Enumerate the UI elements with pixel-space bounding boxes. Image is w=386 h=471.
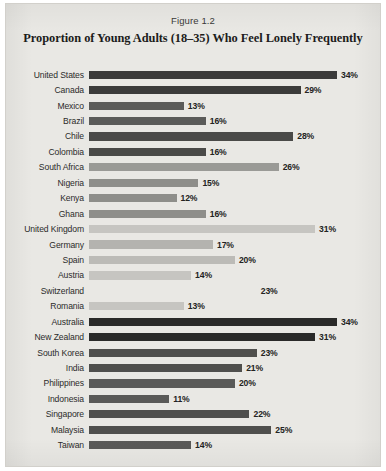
bar-category-label: Austria — [6, 270, 89, 280]
bar-value-label: 34% — [337, 70, 358, 80]
bar-value-label: 16% — [206, 209, 227, 219]
bar-category-label: Singapore — [6, 409, 89, 419]
bar-fill — [89, 426, 271, 434]
bar-track: 17% — [89, 237, 380, 252]
bar-track: 14% — [89, 438, 380, 453]
bar-value-label: 26% — [279, 162, 300, 172]
bar-fill — [89, 148, 206, 156]
bar-chart: United States34%Canada29%Mexico13%Brazil… — [6, 67, 380, 465]
bar-value-label: 14% — [191, 270, 212, 280]
bar-track: 15% — [89, 175, 380, 190]
bar-row: Nigeria15% — [6, 175, 380, 190]
bar-value-label: 12% — [177, 193, 198, 203]
bar-value-label: 34% — [337, 317, 358, 327]
bar-row: Taiwan14% — [6, 438, 380, 453]
bar-fill — [89, 225, 315, 233]
bar-fill — [89, 349, 257, 357]
bar-fill — [89, 271, 191, 279]
bar-fill — [89, 71, 337, 79]
bar-row: Colombia16% — [6, 144, 380, 159]
bar-row: South Korea23% — [6, 345, 380, 360]
bar-track: 28% — [89, 129, 380, 144]
bar-track: 13% — [89, 299, 380, 314]
bar-value-label: 16% — [206, 116, 227, 126]
bar-fill — [89, 210, 206, 218]
bar-track: 13% — [89, 98, 380, 113]
bar-category-label: Brazil — [6, 116, 89, 126]
bar-value-label: 23% — [257, 286, 278, 296]
bar-value-label: 31% — [315, 332, 336, 342]
bar-category-label: India — [6, 363, 89, 373]
bar-category-label: Australia — [6, 317, 89, 327]
bar-row: Chile28% — [6, 129, 380, 144]
bar-category-label: South Africa — [6, 162, 89, 172]
bar-value-label: 29% — [301, 85, 322, 95]
bar-category-label: Kenya — [6, 193, 89, 203]
bar-category-label: New Zealand — [6, 332, 89, 342]
bar-fill — [89, 333, 315, 341]
bar-value-label: 14% — [191, 440, 212, 450]
bar-value-label: 20% — [235, 378, 256, 388]
bar-row: Singapore22% — [6, 407, 380, 422]
figure-panel: Figure 1.2 Proportion of Young Adults (1… — [5, 3, 381, 467]
bar-row: Mexico13% — [6, 98, 380, 113]
bar-value-label: 31% — [315, 224, 336, 234]
bar-value-label: 25% — [271, 425, 292, 435]
bar-row: Spain20% — [6, 252, 380, 267]
bar-track: 29% — [89, 82, 380, 97]
bar-track: 20% — [89, 252, 380, 267]
bar-row: India21% — [6, 360, 380, 375]
bar-row: Switzerland23% — [6, 283, 380, 298]
bar-row: Romania13% — [6, 299, 380, 314]
bar-fill — [89, 194, 177, 202]
bar-track: 23% — [89, 345, 380, 360]
bar-category-label: Nigeria — [6, 178, 89, 188]
bar-category-label: Mexico — [6, 101, 89, 111]
bar-row: Germany17% — [6, 237, 380, 252]
bar-category-label: Malaysia — [6, 425, 89, 435]
figure-title: Proportion of Young Adults (18–35) Who F… — [6, 30, 380, 47]
bar-track: 34% — [89, 314, 380, 329]
bar-row: Brazil16% — [6, 113, 380, 128]
bar-category-label: Germany — [6, 240, 89, 250]
bar-category-label: Ghana — [6, 209, 89, 219]
figure-page: Figure 1.2 Proportion of Young Adults (1… — [0, 0, 386, 471]
bar-track: 12% — [89, 191, 380, 206]
bar-category-label: Philippines — [6, 378, 89, 388]
bar-value-label: 20% — [235, 255, 256, 265]
bar-fill — [89, 410, 249, 418]
bar-track: 23% — [89, 283, 380, 298]
bar-value-label: 16% — [206, 147, 227, 157]
bar-fill — [89, 379, 235, 387]
bar-fill — [89, 318, 337, 326]
bar-fill — [89, 240, 213, 248]
bar-category-label: Indonesia — [6, 394, 89, 404]
bar-fill — [89, 132, 293, 140]
bar-fill — [89, 256, 235, 264]
bar-value-label: 17% — [213, 240, 234, 250]
bar-value-label: 13% — [184, 301, 205, 311]
bar-fill — [89, 287, 257, 295]
bar-category-label: Chile — [6, 131, 89, 141]
bar-row: Kenya12% — [6, 191, 380, 206]
bar-row: Canada29% — [6, 82, 380, 97]
bar-fill — [89, 117, 206, 125]
bar-fill — [89, 86, 301, 94]
bar-fill — [89, 364, 242, 372]
bar-fill — [89, 441, 191, 449]
bar-category-label: Switzerland — [6, 286, 89, 296]
bar-track: 20% — [89, 376, 380, 391]
bar-track: 25% — [89, 422, 380, 437]
bar-category-label: Canada — [6, 85, 89, 95]
figure-header: Figure 1.2 Proportion of Young Adults (1… — [6, 4, 380, 47]
bar-value-label: 21% — [242, 363, 263, 373]
bar-category-label: United Kingdom — [6, 224, 89, 234]
bar-fill — [89, 395, 169, 403]
bar-fill — [89, 179, 198, 187]
bar-value-label: 22% — [249, 409, 270, 419]
bar-row: New Zealand31% — [6, 329, 380, 344]
bar-category-label: South Korea — [6, 348, 89, 358]
bar-track: 16% — [89, 206, 380, 221]
bar-value-label: 28% — [293, 131, 314, 141]
bar-row: South Africa26% — [6, 160, 380, 175]
